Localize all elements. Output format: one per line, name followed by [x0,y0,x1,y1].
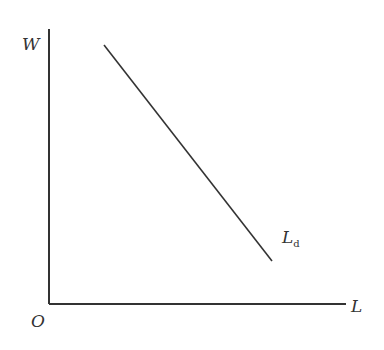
demand-curve [104,45,272,261]
curve-label-main: L [281,227,293,247]
curve-label: Ld [281,227,300,249]
x-axis-label: L [350,296,362,316]
y-axis-label: W [22,34,41,54]
curve-label-subscript: d [293,238,300,249]
labor-demand-diagram: W L O Ld [0,0,384,350]
origin-label: O [31,311,45,331]
